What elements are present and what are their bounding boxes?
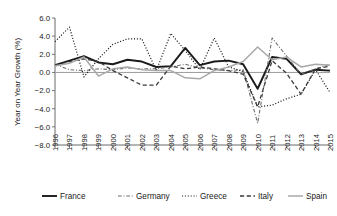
x-tick-label: 1998 bbox=[80, 134, 89, 151]
x-tick-label: 2008 bbox=[225, 134, 234, 151]
y-tick-label: 2.0 bbox=[39, 50, 51, 59]
x-tick-label: 2004 bbox=[167, 134, 176, 151]
chart-legend: FranceGermanyGreeceItalySpain bbox=[42, 192, 327, 201]
x-tick-label: 2013 bbox=[297, 134, 306, 151]
legend-label-greece: Greece bbox=[200, 192, 227, 201]
y-tick-label: −8.0 bbox=[35, 141, 51, 150]
x-tick-label: 2002 bbox=[138, 134, 147, 151]
x-tick-label: 2003 bbox=[152, 134, 161, 151]
series-line-italy bbox=[55, 59, 330, 107]
x-tick-label: 2000 bbox=[109, 134, 118, 151]
x-tick-label: 2009 bbox=[239, 134, 248, 151]
series-line-germany bbox=[55, 38, 330, 123]
chart-figure: Year on Year Growth (%) 6.04.02.00.0−2.0… bbox=[0, 0, 337, 216]
y-tick-label: −2.0 bbox=[35, 86, 51, 95]
series-line-spain bbox=[55, 47, 330, 79]
x-tick-label: 2006 bbox=[196, 134, 205, 151]
series-line-greece bbox=[55, 27, 330, 107]
y-tick-label: 4.0 bbox=[39, 32, 51, 41]
x-tick-label: 2014 bbox=[312, 134, 321, 151]
x-tick-label: 2005 bbox=[181, 134, 190, 151]
line-chart: Year on Year Growth (%) 6.04.02.00.0−2.0… bbox=[0, 0, 337, 216]
y-tick-label: −4.0 bbox=[35, 105, 51, 114]
legend-label-france: France bbox=[60, 192, 86, 201]
y-tick-label: −6.0 bbox=[35, 123, 51, 132]
y-tick-label: 0.0 bbox=[39, 68, 51, 77]
x-tick-label: 2007 bbox=[210, 134, 219, 151]
legend-label-italy: Italy bbox=[258, 192, 274, 201]
x-axis-ticks: 1996199719981999200020012002200320042005… bbox=[51, 134, 335, 151]
x-tick-label: 2011 bbox=[268, 135, 277, 151]
legend-label-germany: Germany bbox=[136, 192, 171, 201]
y-tick-label: 6.0 bbox=[39, 14, 51, 23]
legend-label-spain: Spain bbox=[306, 192, 327, 201]
x-tick-label: 2001 bbox=[123, 134, 132, 151]
x-tick-label: 2010 bbox=[254, 134, 263, 151]
x-tick-label: 1996 bbox=[51, 134, 60, 151]
y-axis-ticks: 6.04.02.00.0−2.0−4.0−6.0−8.0 bbox=[35, 14, 55, 150]
x-tick-label: 2012 bbox=[283, 134, 292, 151]
y-axis-title: Year on Year Growth (%) bbox=[13, 38, 22, 127]
data-series-group bbox=[55, 27, 330, 123]
x-tick-label: 2015 bbox=[326, 134, 335, 151]
x-tick-label: 1999 bbox=[94, 134, 103, 151]
x-tick-label: 1997 bbox=[65, 134, 74, 151]
series-line-france bbox=[55, 48, 330, 89]
y-axis-title-group: Year on Year Growth (%) bbox=[13, 38, 22, 127]
